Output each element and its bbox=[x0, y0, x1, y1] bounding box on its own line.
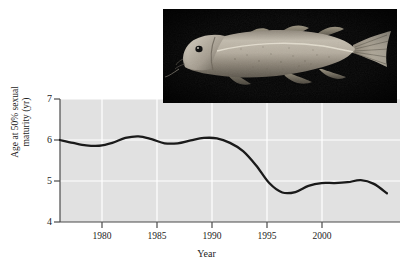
figure-panel: 7 6 5 4 1980 1985 1990 1995 2000 Year Ag… bbox=[0, 0, 413, 274]
x-tick-label-1980: 1980 bbox=[82, 231, 122, 241]
x-axis-title: Year bbox=[0, 248, 413, 259]
y-tick-label-7: 7 bbox=[36, 93, 52, 104]
y-tick-label-4: 4 bbox=[36, 216, 52, 227]
x-tick-label-1990: 1990 bbox=[192, 231, 232, 241]
y-tick-label-6: 6 bbox=[36, 134, 52, 145]
atlantic-cod-photo bbox=[163, 9, 397, 103]
y-axis-ticks bbox=[54, 99, 60, 222]
y-tick-label-5: 5 bbox=[36, 175, 52, 186]
cod-illustration bbox=[163, 9, 397, 103]
x-tick-label-1985: 1985 bbox=[137, 231, 177, 241]
x-tick-label-2000: 2000 bbox=[302, 231, 342, 241]
y-axis-title-line1: Age at 50% sexual bbox=[10, 86, 21, 158]
x-axis-ticks bbox=[102, 222, 322, 228]
plot-area-background bbox=[60, 99, 400, 222]
y-axis-title-line2: maturity (yr) bbox=[21, 86, 32, 158]
y-axis-title: Age at 50% sexual maturity (yr) bbox=[7, 67, 35, 177]
x-tick-label-1995: 1995 bbox=[247, 231, 287, 241]
